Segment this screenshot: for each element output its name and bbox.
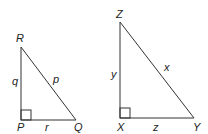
vertex-label-p: P (17, 121, 25, 133)
side-label-q: q (12, 75, 19, 87)
vertex-label-r: R (16, 32, 24, 44)
vertex-label-q: Q (74, 121, 83, 133)
side-label-r: r (45, 121, 50, 133)
triangles-diagram: R q p P r Q Z y x X z Y (0, 0, 208, 134)
right-angle-marker-x (120, 108, 130, 118)
side-label-p: p (52, 73, 59, 85)
vertex-label-y: Y (193, 121, 201, 133)
triangle-xyz: Z y x X z Y (110, 8, 201, 133)
triangle-xyz-outline (120, 22, 194, 118)
side-label-z: z (152, 121, 159, 133)
vertex-label-z: Z (115, 8, 124, 20)
triangle-pqr-outline (21, 47, 76, 120)
vertex-label-x: X (116, 121, 125, 133)
right-angle-marker-p (21, 110, 31, 120)
side-label-x: x (163, 61, 170, 73)
triangle-pqr: R q p P r Q (12, 32, 83, 133)
side-label-y: y (110, 68, 118, 80)
